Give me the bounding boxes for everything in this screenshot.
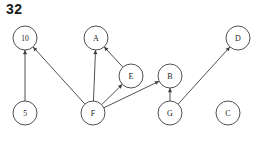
node-label-D: D xyxy=(235,34,241,43)
graph-canvas: 10ADEB5FGC xyxy=(0,0,260,141)
node-label-G: G xyxy=(167,109,173,118)
node-G[interactable]: G xyxy=(158,101,182,125)
node-label-F: F xyxy=(91,109,96,118)
edge-F-to-10 xyxy=(33,47,85,104)
node-label-E: E xyxy=(129,72,134,81)
node-10[interactable]: 10 xyxy=(13,26,37,50)
node-D[interactable]: D xyxy=(226,26,250,50)
edge-F-to-E xyxy=(102,84,123,104)
edge-G-to-D xyxy=(178,47,230,104)
arrowhead-5-to-10 xyxy=(23,50,27,54)
node-label-5: 5 xyxy=(23,109,27,118)
graph-figure: 32 10ADEB5FGC xyxy=(0,0,260,141)
node-label-10: 10 xyxy=(21,34,29,43)
edge-F-to-A xyxy=(93,50,95,101)
arrowhead-F-to-A xyxy=(93,50,97,54)
node-label-A: A xyxy=(93,34,99,43)
node-label-B: B xyxy=(167,72,172,81)
node-C[interactable]: C xyxy=(216,101,240,125)
node-B[interactable]: B xyxy=(158,64,182,88)
nodes-layer: 10ADEB5FGC xyxy=(13,26,250,125)
arrowhead-G-to-B xyxy=(168,88,172,92)
node-F[interactable]: F xyxy=(81,101,105,125)
node-E[interactable]: E xyxy=(119,64,143,88)
node-label-C: C xyxy=(225,109,230,118)
node-5[interactable]: 5 xyxy=(13,101,37,125)
node-A[interactable]: A xyxy=(84,26,108,50)
